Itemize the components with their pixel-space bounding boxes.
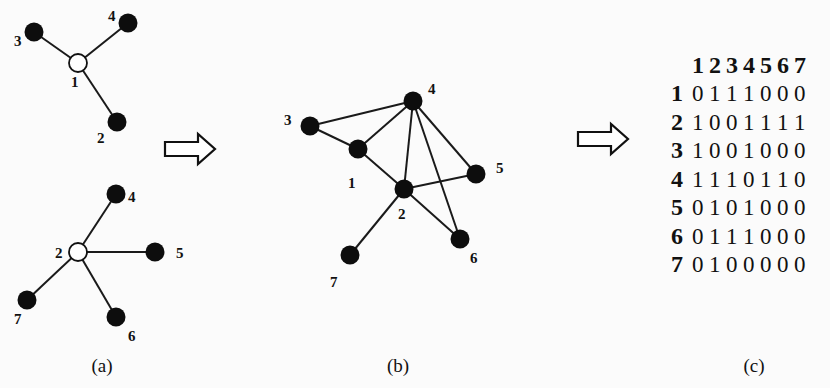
node-1: [349, 140, 368, 159]
matrix-cell: 0: [794, 167, 806, 192]
matrix-cell: 0: [760, 138, 772, 163]
matrix-cell: 0: [777, 224, 789, 249]
matrix-col-header: 1: [692, 52, 704, 78]
matrix-row-header: 3: [671, 137, 683, 163]
matrix-cell: 0: [726, 110, 738, 135]
matrix-cell: 1: [709, 195, 721, 220]
matrix-cell: 1: [692, 138, 704, 163]
arrow-b-to-c-icon: [578, 124, 628, 154]
node-5: [146, 243, 165, 262]
matrix-row-header: 5: [671, 194, 683, 220]
node-2: [395, 180, 414, 199]
matrix-cell: 0: [777, 252, 789, 277]
matrix-col-header: 6: [777, 52, 789, 78]
star-graph-1: 3421: [14, 8, 138, 146]
matrix-cell: 0: [692, 195, 704, 220]
arrows: [165, 124, 628, 164]
node-label-5: 5: [496, 160, 504, 176]
node-label-6: 6: [128, 328, 136, 344]
matrix-col-header: 2: [709, 52, 721, 78]
node-label-3: 3: [14, 33, 22, 49]
edge-2-7: [27, 252, 78, 300]
panel-a: 3421 45762 (a): [14, 8, 184, 377]
matrix-cell: 1: [726, 81, 738, 106]
edge-4-5: [413, 101, 476, 174]
node-label-7: 7: [14, 311, 22, 327]
node-label-3: 3: [284, 112, 292, 128]
matrix-row-header: 2: [671, 109, 683, 135]
matrix-cell: 0: [760, 252, 772, 277]
matrix-cell: 1: [709, 224, 721, 249]
merged-graph-edges: [310, 101, 476, 255]
node-2: [108, 113, 127, 132]
node-7: [18, 291, 37, 310]
node-label-2: 2: [398, 206, 406, 222]
node-label-5: 5: [176, 245, 184, 261]
matrix-col-header: 5: [760, 52, 772, 78]
matrix-cell: 1: [777, 167, 789, 192]
matrix-cell: 0: [726, 138, 738, 163]
caption-b: (b): [387, 355, 409, 377]
star-graph-2: 45762: [14, 185, 184, 345]
figure-canvas: 3421 45762 (a) 1234567 (b) 1234567101110…: [0, 0, 830, 388]
panel-b: 1234567 (b): [284, 81, 504, 377]
merged-graph-nodes: 1234567: [284, 81, 504, 290]
matrix-cell: 1: [743, 195, 755, 220]
node-label-6: 6: [470, 250, 478, 266]
matrix-cell: 1: [709, 81, 721, 106]
matrix-cell: 0: [692, 81, 704, 106]
matrix-cell: 1: [726, 167, 738, 192]
node-label-7: 7: [330, 274, 338, 290]
matrix-cell: 0: [794, 81, 806, 106]
matrix-cell: 0: [760, 224, 772, 249]
matrix-cell: 0: [692, 252, 704, 277]
matrix-cell: 0: [794, 252, 806, 277]
matrix-cell: 0: [709, 138, 721, 163]
edge-2-7: [350, 189, 404, 255]
node-label-4: 4: [128, 189, 136, 205]
matrix-col-header: 4: [743, 52, 755, 78]
matrix-cell: 0: [777, 138, 789, 163]
matrix-cell: 1: [692, 167, 704, 192]
matrix-cell: 1: [709, 252, 721, 277]
node-5: [467, 165, 486, 184]
matrix-cell: 0: [760, 195, 772, 220]
matrix-cell: 1: [777, 110, 789, 135]
matrix-row-header: 1: [671, 80, 683, 106]
matrix-row-header: 7: [671, 251, 683, 277]
matrix-cell: 0: [777, 195, 789, 220]
node-label-1: 1: [348, 175, 356, 191]
node-label-1: 1: [71, 74, 79, 90]
matrix-row-header: 6: [671, 223, 683, 249]
arrow-a-to-b-icon: [165, 134, 215, 164]
matrix-cell: 1: [743, 138, 755, 163]
node-7: [341, 246, 360, 265]
edge-1-2: [78, 63, 117, 122]
matrix-row-header: 4: [671, 166, 683, 192]
matrix-cell: 1: [794, 110, 806, 135]
node-label-4: 4: [428, 81, 436, 97]
caption-a: (a): [91, 355, 112, 377]
matrix-cell: 0: [760, 81, 772, 106]
matrix-cell: 1: [743, 81, 755, 106]
matrix-cell: 1: [709, 167, 721, 192]
node-3: [25, 23, 44, 42]
node-3: [301, 117, 320, 136]
matrix-col-header: 3: [726, 52, 738, 78]
node-4: [404, 92, 423, 111]
matrix-cell: 0: [794, 138, 806, 163]
matrix-cell: 0: [743, 252, 755, 277]
matrix-cell: 1: [760, 167, 772, 192]
matrix-cell: 1: [760, 110, 772, 135]
node-label-2: 2: [97, 130, 105, 146]
matrix-cell: 0: [777, 81, 789, 106]
adjacency-matrix: 1234567101110002100111131001000411101105…: [671, 52, 806, 277]
matrix-col-header: 7: [794, 52, 806, 78]
matrix-cell: 1: [743, 224, 755, 249]
edge-2-4: [404, 101, 413, 189]
caption-c: (c): [743, 355, 764, 377]
matrix-cell: 0: [726, 195, 738, 220]
node-1: [69, 54, 87, 72]
matrix-cell: 0: [726, 252, 738, 277]
matrix-cell: 0: [743, 167, 755, 192]
